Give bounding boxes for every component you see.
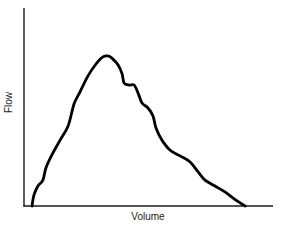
x-axis-label: Volume xyxy=(0,211,282,222)
flow-volume-chart xyxy=(0,0,282,230)
y-axis-label: Flow xyxy=(3,88,14,118)
flow-volume-curve xyxy=(32,56,245,206)
